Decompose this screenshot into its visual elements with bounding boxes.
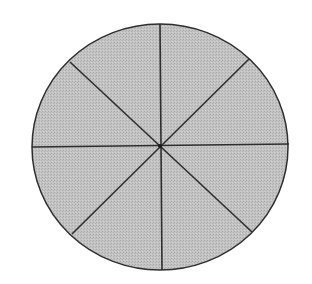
- divided-circle-diagram: [0, 0, 312, 284]
- center-point: [158, 144, 162, 148]
- diagram-canvas: Circle divided into 8 equal sectors by 4…: [0, 0, 312, 284]
